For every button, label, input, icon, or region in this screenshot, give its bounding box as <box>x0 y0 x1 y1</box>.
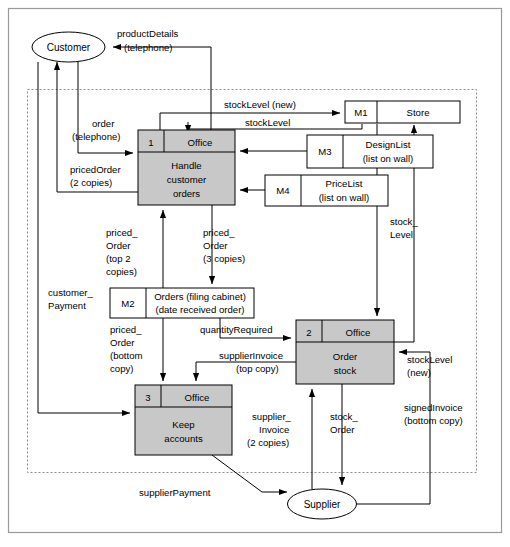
label-stocklevel-new-right-1: stockLevel <box>407 354 452 365</box>
label-supplier-invoice-2copies-2: Invoice <box>259 424 289 435</box>
label-priced-order-3copies-1: priced_ <box>203 227 235 238</box>
data-store-m3-name-line-2: (list on wall) <box>363 153 414 164</box>
label-priced-order-top2-2: Order <box>106 240 131 251</box>
dfd-canvas: Customer Supplier 1 Office Handle custom… <box>0 0 510 547</box>
flow-labels: productDetails (telephone) order (teleph… <box>48 28 463 498</box>
data-store-m4-name-line-1: PriceList <box>326 178 363 189</box>
data-store-m2-code: M2 <box>121 298 134 309</box>
label-supplier-payment: supplierPayment <box>139 487 211 498</box>
process-2-name-line-1: Order <box>333 351 358 362</box>
external-entity-customer[interactable]: Customer <box>32 32 105 62</box>
label-customer-payment-2: Payment <box>48 300 86 311</box>
label-priced-order-bottom-4: copy) <box>110 363 133 374</box>
data-store-m4[interactable]: M4 PriceList (list on wall) <box>265 175 388 206</box>
label-priced-order-2copies-1: pricedOrder <box>70 164 121 175</box>
external-entity-supplier[interactable]: Supplier <box>288 489 357 519</box>
flow-product-details-line <box>113 47 211 130</box>
process-1-location: Office <box>188 137 213 148</box>
process-3-name-line-1: Keep <box>172 419 194 430</box>
process-2[interactable]: 2 Office Order stock <box>296 320 394 384</box>
label-priced-order-bottom-1: priced_ <box>110 324 142 335</box>
label-stocklevel-new-top: stockLevel (new) <box>224 99 296 110</box>
label-priced-order-top2-3: (top 2 <box>106 253 131 264</box>
data-store-m4-name-line-2: (list on wall) <box>319 192 370 203</box>
label-order-1: order <box>92 118 115 129</box>
process-1[interactable]: 1 Office Handle customer orders <box>138 130 235 205</box>
label-stock-level-right-1: stock_ <box>390 216 418 227</box>
label-supplier-invoice-top-2: (top copy) <box>236 363 279 374</box>
label-priced-order-2copies-2: (2 copies) <box>70 177 112 188</box>
data-store-m2[interactable]: M2 Orders (filing cabinet) (date receive… <box>110 288 254 318</box>
process-1-name-line-3: orders <box>173 188 200 199</box>
data-store-m3-code: M3 <box>318 146 331 157</box>
label-stock-order-2: Order <box>330 424 355 435</box>
data-store-m2-name-line-1: Orders (filing cabinet) <box>154 291 246 302</box>
label-supplier-invoice-2copies-1: supplier_ <box>252 411 292 422</box>
data-store-m2-name-line-2: (date received order) <box>155 304 244 315</box>
process-1-name-line-1: Handle <box>171 160 201 171</box>
label-signed-invoice-2: (bottom copy) <box>404 415 463 426</box>
data-store-m3-name-line-1: DesignList <box>366 139 411 150</box>
label-stocklevel-new-right-2: (new) <box>407 367 431 378</box>
label-stock-level-right-2: Level <box>390 229 413 240</box>
data-store-m4-code: M4 <box>276 185 290 196</box>
data-store-m3[interactable]: M3 DesignList (list on wall) <box>307 135 433 168</box>
label-supplier-invoice-top-1: supplierInvoice <box>219 350 283 361</box>
process-3-location: Office <box>185 392 210 403</box>
label-priced-order-top2-1: priced_ <box>106 227 138 238</box>
data-store-m1-name: Store <box>407 107 430 118</box>
label-priced-order-bottom-3: (bottom <box>110 350 143 361</box>
process-3[interactable]: 3 Office Keep accounts <box>135 385 232 455</box>
label-priced-order-3copies-3: (3 copies) <box>203 253 245 264</box>
outer-frame <box>9 9 502 533</box>
process-2-name-line-2: stock <box>334 365 357 376</box>
process-1-name-line-2: customer <box>167 174 207 185</box>
label-product-details-1: productDetails <box>117 28 179 39</box>
label-priced-order-top2-4: copies) <box>106 266 137 277</box>
flow-supplier-payment-line <box>212 455 287 492</box>
process-1-number: 1 <box>148 137 153 148</box>
process-3-number: 3 <box>145 392 150 403</box>
label-stocklevel: stockLevel <box>245 117 290 128</box>
label-quantity-required: quantityRequired <box>200 324 273 335</box>
label-customer-payment-1: customer_ <box>48 287 93 298</box>
label-priced-order-3copies-2: Order <box>203 240 228 251</box>
label-order-2: (telephone) <box>72 131 121 142</box>
label-stock-order-1: stock_ <box>330 411 358 422</box>
label-supplier-invoice-2copies-3: (2 copies) <box>247 437 289 448</box>
data-store-m1[interactable]: M1 Store <box>345 101 460 123</box>
process-2-number: 2 <box>306 327 311 338</box>
label-signed-invoice-1: signedInvoice <box>404 402 463 413</box>
process-2-location: Office <box>346 327 371 338</box>
label-priced-order-bottom-2: Order <box>110 337 135 348</box>
supplier-label: Supplier <box>304 499 341 510</box>
customer-label: Customer <box>47 42 91 53</box>
data-store-m1-code: M1 <box>354 107 367 118</box>
label-product-details-2: (telephone) <box>124 42 173 53</box>
process-3-name-line-2: accounts <box>164 433 203 444</box>
